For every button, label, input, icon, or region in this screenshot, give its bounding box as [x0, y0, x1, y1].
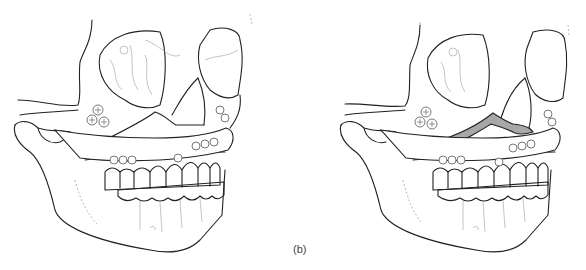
- fixation-plate-left-b: [415, 107, 437, 129]
- skull-illustration-b: [293, 0, 586, 270]
- upper-teeth: [105, 162, 220, 190]
- lower-teeth: [118, 182, 224, 232]
- skull-illustration-a: [0, 0, 293, 270]
- fixation-plate-left: [87, 105, 109, 127]
- panel-b: (b): [293, 0, 586, 270]
- panel-a: [0, 0, 293, 270]
- panel-label-b: (b): [293, 243, 306, 255]
